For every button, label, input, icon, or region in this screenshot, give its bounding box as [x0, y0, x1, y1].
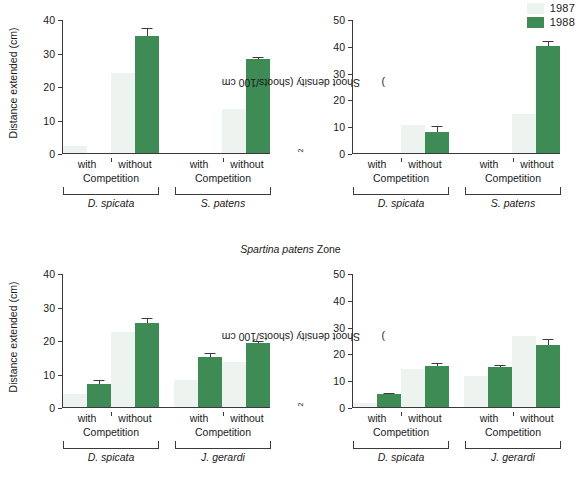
y-axis-tick-label: 40 [43, 14, 55, 26]
bar-1987 [111, 73, 135, 153]
error-bar [384, 393, 395, 395]
y-axis-tick-label: 20 [333, 94, 345, 106]
y-axis-tick [58, 121, 62, 122]
x-axis-labels: withwithoutCompetitionD. spicatawithwith… [63, 412, 271, 463]
bar-1988 [536, 46, 560, 153]
x-species-block: withwithoutCompetitionS. patens [465, 158, 561, 209]
condition-cell [174, 274, 222, 407]
x-condition-label: without [111, 412, 159, 424]
group-gap [449, 20, 464, 153]
y-axis-tick-label: 30 [333, 322, 345, 334]
error-bar-cap [432, 126, 443, 127]
condition-cell [63, 274, 111, 407]
error-bar [142, 318, 153, 323]
plot-area: 01020304050 [352, 20, 560, 154]
bar-1988 [135, 323, 159, 407]
error-bar-cap [142, 318, 153, 319]
condition-cell [353, 274, 401, 407]
x-axis-title: Competition [63, 172, 159, 184]
bar-1987 [174, 380, 198, 407]
x-condition-label: without [223, 158, 271, 170]
y-axis-tick [348, 408, 352, 409]
error-bar [543, 41, 554, 46]
y-axis-tick [348, 74, 352, 75]
x-species-block: withwithoutCompetitionJ. gerardi [175, 412, 271, 463]
x-group-gap [449, 158, 465, 209]
error-bar [253, 57, 264, 60]
error-bar-cap [432, 363, 443, 364]
x-axis-title: Competition [353, 172, 449, 184]
error-bar-cap [142, 28, 153, 29]
x-axis-title: Competition [465, 426, 561, 438]
bar-1987 [464, 376, 488, 407]
y-axis-tick-label: 0 [339, 148, 345, 160]
x-axis-minor-tick [223, 412, 224, 416]
error-bar-cap [543, 339, 554, 340]
group-gap [159, 20, 174, 153]
y-axis-tick-label: 20 [43, 81, 55, 93]
y-axis-tick-label: 20 [43, 335, 55, 347]
error-bar-cap [205, 353, 216, 354]
species-group [63, 274, 159, 407]
x-species-block: withwithoutCompetitionD. spicata [63, 412, 159, 463]
y-axis-title: Distance extended (cm) [6, 262, 20, 412]
y-axis-tick-label: 40 [333, 295, 345, 307]
species-label: D. spicata [353, 451, 449, 463]
y-axis-tick [58, 274, 62, 275]
species-bracket [63, 441, 159, 449]
x-axis-line [62, 407, 270, 408]
x-axis-title: Competition [63, 426, 159, 438]
y-axis-tick [58, 408, 62, 409]
error-bar [432, 126, 443, 131]
x-group-gap [449, 412, 465, 463]
species-bracket [465, 441, 561, 449]
species-bracket [353, 441, 449, 449]
bar-1987 [222, 109, 246, 153]
error-bar-cap [253, 57, 264, 58]
species-bracket [63, 187, 159, 195]
y-axis-tick-label: 30 [43, 48, 55, 60]
x-species-block: withwithoutCompetitionD. spicata [63, 158, 159, 209]
panel-top-right: Shoot density (shoots/100 cm2)0102030405… [290, 8, 581, 233]
bar-1988 [246, 59, 270, 153]
x-axis-labels: withwithoutCompetitionD. spicatawithwith… [63, 158, 271, 209]
x-species-block: withwithoutCompetitionJ. gerardi [465, 412, 561, 463]
species-group [464, 20, 560, 153]
panel-bottom-right: Shoot density (shoots/100 cm2)0102030405… [290, 262, 581, 487]
x-condition-label: with [465, 158, 513, 170]
y-axis-title-superscript: 2 [297, 402, 304, 406]
bar-1988 [536, 345, 560, 407]
condition-cell [512, 20, 560, 153]
condition-cell [464, 20, 512, 153]
group-gap [159, 274, 174, 407]
y-axis-tick [348, 127, 352, 128]
y-axis-tick-label: 50 [333, 268, 345, 280]
y-axis-tick [348, 20, 352, 21]
species-label: D. spicata [63, 451, 159, 463]
x-condition-label: with [353, 158, 401, 170]
bar-1988 [425, 132, 449, 153]
y-axis-tick [348, 47, 352, 48]
species-bracket [175, 187, 271, 195]
bar-1987 [353, 403, 377, 407]
y-axis-tick [348, 354, 352, 355]
species-label: S. patens [175, 197, 271, 209]
x-axis-line [352, 153, 560, 154]
condition-cell [401, 20, 449, 153]
species-group [353, 274, 449, 407]
zone-title: Spartina patens Zone [0, 243, 581, 255]
x-condition-label: with [63, 158, 111, 170]
error-bar [543, 339, 554, 345]
species-bracket [175, 441, 271, 449]
y-axis-title: Shoot density (shoots/100 cm2) [296, 262, 310, 412]
zone-title-species: Spartina patens [240, 243, 314, 255]
error-bar [432, 363, 443, 366]
error-bar [142, 28, 153, 35]
plot-area: 01020304050 [352, 274, 560, 408]
x-condition-label: without [401, 158, 449, 170]
y-axis-tick-label: 30 [43, 302, 55, 314]
y-axis-tick [58, 20, 62, 21]
x-condition-label: without [223, 412, 271, 424]
y-axis-tick [58, 54, 62, 55]
y-axis-tick [58, 375, 62, 376]
